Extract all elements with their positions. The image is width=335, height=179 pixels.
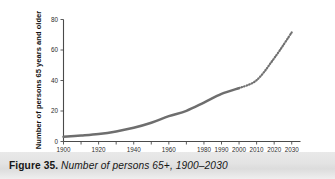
figure-container: 020406080 190019201940196019801990200020… <box>0 0 335 179</box>
y-tick-label-0: 0 <box>54 138 58 145</box>
figure-caption-label: Figure 35. <box>9 160 58 171</box>
y-axis-tick-labels: 020406080 <box>51 16 59 145</box>
figure-caption: Figure 35. Number of persons 65+, 1900–2… <box>9 160 228 171</box>
chart-plot-area: 020406080 190019201940196019801990200020… <box>0 0 335 152</box>
chart-axes <box>64 20 301 142</box>
series-projected-line <box>239 32 292 88</box>
y-tick-label-20: 20 <box>51 107 59 114</box>
y-axis-title: Number of persons 65 years and older <box>34 11 43 149</box>
y-tick-label-80: 80 <box>51 16 59 23</box>
y-tick-label-60: 60 <box>51 46 59 53</box>
series-actual-line <box>64 88 240 137</box>
figure-caption-title: Number of persons 65+, 1900–2030 <box>61 160 228 171</box>
figure-caption-bar: Figure 35. Number of persons 65+, 1900–2… <box>0 152 335 179</box>
line-chart: 020406080 190019201940196019801990200020… <box>0 0 335 152</box>
y-tick-label-40: 40 <box>51 77 59 84</box>
